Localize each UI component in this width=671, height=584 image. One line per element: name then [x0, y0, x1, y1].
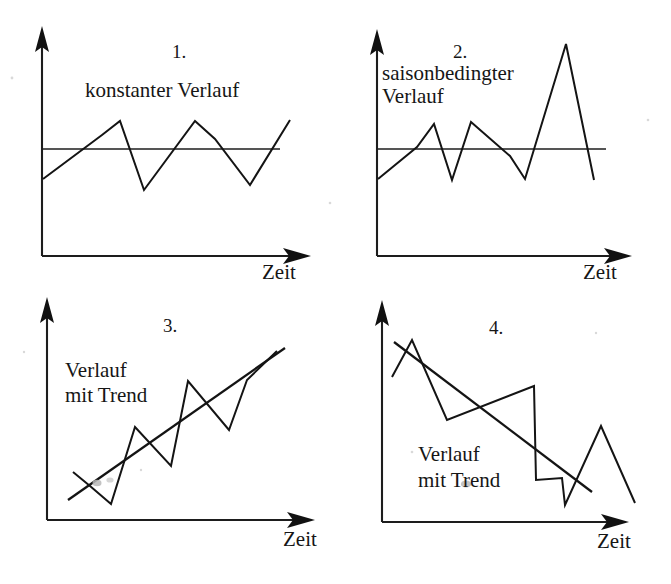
panel-3-caption-line-2: mit Trend — [65, 383, 148, 407]
panel-2-number: 2. — [453, 41, 467, 62]
panel-3-number: 3. — [163, 315, 177, 336]
panel-2-x-axis-label: Zeit — [583, 260, 617, 284]
panel-3-x-axis-label: Zeit — [283, 527, 317, 551]
panel-1-caption-line-1: konstanter Verlauf — [85, 78, 239, 102]
panel-3-caption-line-1: Verlauf — [65, 358, 127, 382]
scan-speckles — [11, 77, 650, 472]
panel-2: 2. saisonbedingter Verlauf Zeit — [370, 29, 632, 284]
figure-canvas: 1. konstanter Verlauf Zeit 2. saisonbedi… — [0, 0, 671, 584]
panel-4-number: 4. — [489, 317, 503, 338]
panel-2-caption-line-1: saisonbedingter — [382, 61, 514, 85]
panel-3-scan-smudge — [93, 477, 114, 486]
timeseries-figure: 1. konstanter Verlauf Zeit 2. saisonbedi… — [0, 0, 671, 584]
panel-2-caption-line-2: Verlauf — [382, 84, 444, 108]
panel-4-caption-line-1: Verlauf — [418, 442, 480, 466]
panel-1-number: 1. — [172, 41, 186, 62]
panel-4-x-axis-label: Zeit — [597, 529, 631, 553]
panel-4: 4. Verlauf mit Trend Zeit — [375, 300, 635, 553]
panel-1-x-axis-label: Zeit — [262, 260, 296, 284]
panel-1: 1. konstanter Verlauf Zeit — [35, 26, 311, 284]
panel-4-caption-line-2: mit Trend — [418, 468, 501, 492]
panel-1-series-line — [43, 120, 290, 190]
panel-3: 3. Verlauf mit Trend Zeit — [40, 297, 317, 551]
